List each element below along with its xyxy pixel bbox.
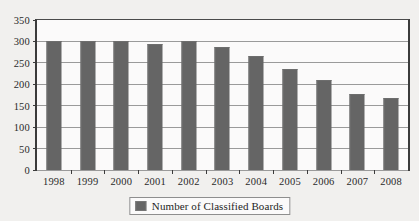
x-axis-tick <box>307 170 308 174</box>
bar <box>316 80 331 170</box>
x-axis-label: 1998 <box>43 176 65 187</box>
x-axis-label: 2002 <box>178 176 200 187</box>
bar-series-number-of-classified-boards: 1998199920002001200220032004200520062007… <box>37 20 408 170</box>
y-axis-label: 50 <box>19 143 30 154</box>
bar-group: 1999 <box>71 20 105 170</box>
bar <box>148 44 163 170</box>
x-axis-tick <box>239 170 240 174</box>
y-axis-label: 100 <box>14 122 30 133</box>
bar <box>282 69 297 170</box>
y-axis-label: 150 <box>14 100 30 111</box>
x-axis-tick <box>206 170 207 174</box>
x-axis-label: 2007 <box>346 176 368 187</box>
bar-group: 1998 <box>37 20 71 170</box>
x-axis-tick <box>374 170 375 174</box>
bar-group: 2002 <box>172 20 206 170</box>
legend-item-label: Number of Classified Boards <box>152 200 283 212</box>
x-axis-label: 2006 <box>313 176 335 187</box>
bar-group: 2007 <box>341 20 375 170</box>
bar-group: 2005 <box>273 20 307 170</box>
x-axis-tick <box>71 170 72 174</box>
bar-group: 2000 <box>104 20 138 170</box>
bar-group: 2003 <box>206 20 240 170</box>
bar-chart-figure: 050100150200250300350 199819992000200120… <box>0 0 419 221</box>
y-axis-label: 0 <box>25 165 30 176</box>
y-axis-label: 300 <box>14 36 30 47</box>
bar <box>249 56 264 170</box>
bar-group: 2006 <box>307 20 341 170</box>
x-axis-label: 2000 <box>110 176 132 187</box>
bar <box>181 41 196 170</box>
bar-group: 2001 <box>138 20 172 170</box>
y-axis-label: 350 <box>14 15 30 26</box>
x-axis-label: 1999 <box>77 176 99 187</box>
x-axis-tick <box>138 170 139 174</box>
x-axis-label: 2008 <box>380 176 402 187</box>
y-axis-label: 200 <box>14 79 30 90</box>
chart-legend: Number of Classified Boards <box>129 197 290 215</box>
plot-area: 050100150200250300350 199819992000200120… <box>35 19 410 171</box>
bar <box>384 98 399 170</box>
bar-group: 2008 <box>374 20 408 170</box>
x-axis-label: 2004 <box>245 176 267 187</box>
bar-group: 2004 <box>239 20 273 170</box>
x-axis-tick <box>341 170 342 174</box>
x-axis-label: 2003 <box>212 176 234 187</box>
y-axis-label: 250 <box>14 57 30 68</box>
bar <box>350 94 365 170</box>
bar <box>46 41 61 170</box>
bar <box>215 47 230 170</box>
legend-swatch-square-icon <box>135 201 146 211</box>
x-axis-label: 2001 <box>144 176 166 187</box>
x-axis-tick <box>273 170 274 174</box>
bar <box>80 41 95 170</box>
x-axis-label: 2005 <box>279 176 301 187</box>
x-axis-tick <box>104 170 105 174</box>
bar <box>114 41 129 170</box>
x-axis-tick <box>172 170 173 174</box>
